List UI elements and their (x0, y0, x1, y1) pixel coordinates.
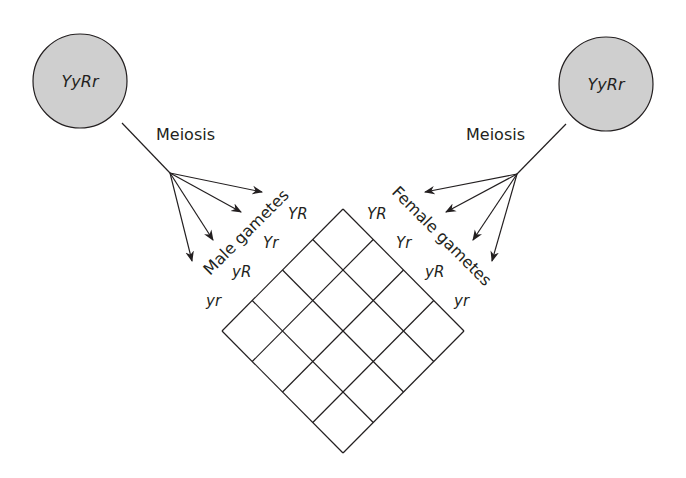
arrow-icon (446, 174, 517, 212)
arrow-icon (170, 173, 262, 192)
male-meiosis-label: Meiosis (156, 125, 215, 144)
arrow-icon (425, 174, 517, 192)
arrow-icon (170, 173, 213, 240)
female-parent-cell: YyRr (559, 37, 653, 131)
female-gamete-label: yR (424, 263, 444, 281)
male-genotype-label: YyRr (62, 72, 100, 91)
arrow-icon (492, 174, 517, 261)
punnett-square-grid (222, 209, 464, 453)
male-gamete-label: yR (231, 263, 251, 281)
male-gamete-label: Yr (263, 234, 279, 252)
male-gamete-label: yr (205, 292, 222, 310)
male-gamete-label: YR (288, 205, 308, 223)
female-meiosis-label: Meiosis (466, 125, 525, 144)
arrow-icon (170, 173, 192, 261)
arrow-icon (170, 173, 241, 212)
male-parent-cell: YyRr (33, 34, 127, 128)
female-gamete-label: Yr (396, 234, 412, 252)
punnett-diagram: YyRr Meiosis Male gametes YyRr Meiosis F… (0, 0, 686, 478)
arrow-icon (473, 174, 517, 240)
female-genotype-label: YyRr (588, 75, 626, 94)
female-gamete-label: YR (367, 205, 387, 223)
female-gamete-label: yr (453, 292, 470, 310)
